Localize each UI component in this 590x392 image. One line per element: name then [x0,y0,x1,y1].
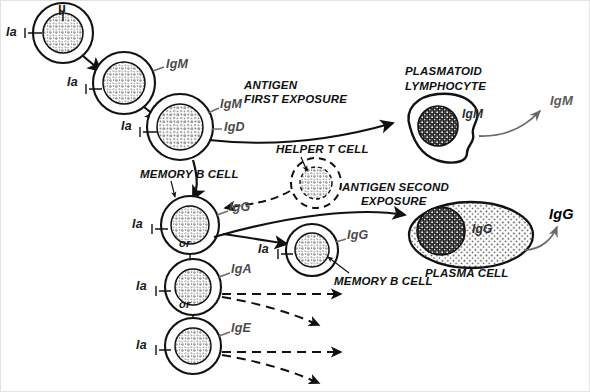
cell-ige-b-cell [156,318,230,374]
label-igm-inside-plasmatoid: IgM [462,108,483,121]
label-ia-ige-cell: Ia [136,339,147,353]
immunology-diagram-svg [1,1,590,392]
label-ia-second-memory: Ia [258,243,269,257]
cell-second-memory-b-cell [278,224,346,276]
output-label-igg: IgG [549,207,574,223]
caption-antigen-first-exposure-line2: FIRST EXPOSURE [244,93,347,105]
label-ia-iga-cell: Ia [136,280,147,294]
caption-antigen-first-exposure-line1: ANTIGEN [244,79,297,91]
label-igd-surface-cell3: IgD [224,121,245,135]
cell-igm-b-cell [86,52,164,114]
label-mu-surface: μ [58,1,66,15]
label-ia-igm-cell: Ia [67,76,78,90]
arrow-igm-secretion [479,111,540,136]
or-label-ige: or [179,299,190,311]
cell-helper-t-cell [291,158,341,208]
or-label-iga: or [179,238,190,250]
label-ia-igg-memory: Ia [132,218,143,232]
label-igm-surface-cell2: IgM [166,58,188,72]
label-ige-surface: IgE [231,322,251,336]
arrow-ige-output-2 [222,355,319,383]
caption-helper-t-cell: HELPER T CELL [276,143,369,155]
caption-antigen-second-exposure-line1: ANTIGEN SECOND [342,181,449,193]
effector-plasmatoid-lymphocyte [409,94,478,163]
cell-iga-b-cell [156,259,230,315]
label-igg-surface-second-memory: IgG [347,229,368,243]
output-label-igm: IgM [550,94,573,108]
label-igg-surface-memory: IgG [229,201,250,215]
cell-igm-igd-b-cell [140,94,222,160]
caption-plasmatoid-lymphocyte-line1: PLASMATOID [405,65,482,77]
label-ia-stem-cell: Ia [6,26,17,40]
caption-memory-b-cell-2: MEMORY B CELL [334,275,433,287]
leader-memory-b-cell-1 [171,181,175,197]
effector-plasma-cell [409,202,533,268]
arrow-to-second-memory [223,234,287,244]
caption-plasmatoid-lymphocyte-line2: LYMPHOCYTE [405,80,486,92]
caption-memory-b-cell-1: MEMORY B CELL [140,168,239,180]
caption-antigen-second-exposure-line2: EXPOSURE [361,195,427,207]
label-iga-surface: IgA [231,263,252,277]
label-igg-inside-plasma-cell: IgG [472,223,493,236]
label-igm-surface-cell3: IgM [220,98,242,112]
diagram-canvas: Ia μ Ia IgM Ia IgM IgD ANTIGEN FIRST EXP… [0,0,590,392]
caption-plasma-cell: PLASMA CELL [425,267,509,279]
label-ia-igmigd-cell: Ia [121,120,132,134]
